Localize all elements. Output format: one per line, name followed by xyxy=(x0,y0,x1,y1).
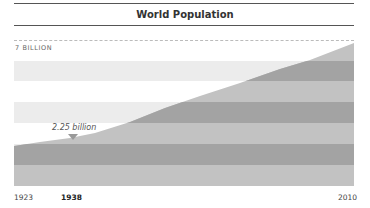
seven-billion-label: 7 BILLION xyxy=(15,44,52,52)
plot-area xyxy=(0,0,370,208)
x-tick-start: 1923 xyxy=(14,193,33,202)
x-tick-end: 2010 xyxy=(338,193,357,202)
seven-billion-line xyxy=(14,40,354,41)
annotation-marker-icon xyxy=(68,134,78,140)
annotation-label: 2.25 billion xyxy=(52,123,96,132)
x-tick-highlight: 1938 xyxy=(61,193,82,202)
